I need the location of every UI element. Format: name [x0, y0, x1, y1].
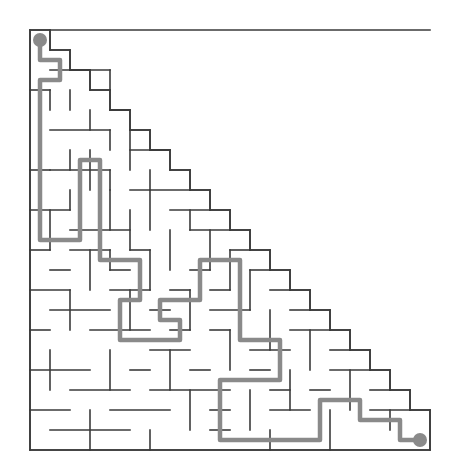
end-marker	[413, 433, 427, 447]
maze-svg	[0, 0, 455, 471]
maze-figure	[0, 0, 455, 471]
start-marker	[33, 33, 47, 47]
